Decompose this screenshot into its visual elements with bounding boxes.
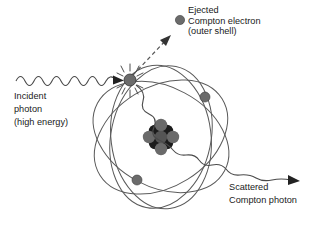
orbital-electron-right	[200, 92, 210, 102]
scattered-label-line1: Scattered	[229, 182, 268, 192]
scattered-label-line2: Compton photon	[229, 195, 297, 205]
ejected-label-line3: (outer shell)	[188, 26, 237, 36]
ejected-label-line1: Ejected	[188, 5, 219, 15]
compton-scattering-diagram: Ejected Compton electron (outer shell) I…	[0, 0, 322, 226]
incident-label-line1: Incident	[14, 91, 47, 101]
incident-label-line3: (high energy)	[14, 117, 68, 127]
figure-background	[0, 0, 322, 226]
orbital-electron-bottom	[132, 175, 142, 185]
nucleon-gray-top	[155, 119, 167, 131]
ejected-electron-marker	[175, 15, 184, 24]
nucleon-gray-bottom	[155, 143, 167, 155]
nucleon-gray-right	[167, 131, 179, 143]
ejected-label-line2: Compton electron	[188, 16, 261, 26]
incident-label-line2: photon	[14, 104, 42, 114]
collision-electron	[124, 74, 136, 86]
